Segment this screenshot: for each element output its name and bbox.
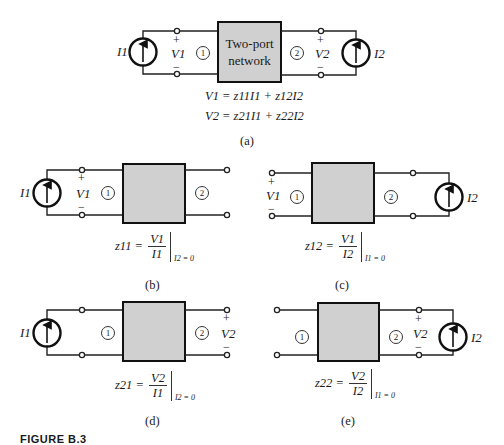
label-v1: V1 <box>76 187 90 200</box>
minus-sign: − <box>317 61 324 73</box>
port-1-marker: 1 <box>101 326 115 340</box>
caption-a: (a) <box>240 134 254 149</box>
label-i1: I1 <box>20 326 31 339</box>
caption-c: (c) <box>335 278 349 293</box>
label-i2: I2 <box>467 191 478 204</box>
plus-sign: + <box>317 34 324 46</box>
minus-sign: − <box>173 61 180 73</box>
plus-sign: + <box>223 312 230 324</box>
minus-sign: − <box>223 341 230 353</box>
figure-caption: FIGURE B.3 <box>20 433 87 445</box>
equation-v1: V1 = z11I1 + z12I2 <box>205 89 303 104</box>
label-i1: I1 <box>117 45 128 58</box>
minus-sign: − <box>268 203 275 215</box>
port-2-marker: 2 <box>195 186 209 200</box>
label-i2: I2 <box>471 331 482 344</box>
label-v1: V1 <box>171 47 185 60</box>
port-1-marker: 1 <box>295 330 309 344</box>
z12-definition: z12 = V1I2I1 = 0 <box>305 232 362 262</box>
plus-sign: + <box>78 172 85 184</box>
label-v2: V2 <box>413 327 427 340</box>
caption-d: (d) <box>145 414 160 429</box>
minus-sign: − <box>78 201 85 213</box>
port-2-marker: 2 <box>389 330 403 344</box>
minus-sign: − <box>415 341 422 353</box>
plus-sign: + <box>173 34 180 46</box>
port-2-marker: 2 <box>195 326 209 340</box>
port-1-marker: 1 <box>101 186 115 200</box>
label-v1: V1 <box>266 189 280 202</box>
port-2-marker: 2 <box>384 190 398 204</box>
z21-definition: z21 = V2I1I2 = 0 <box>115 371 172 401</box>
label-i2: I2 <box>374 47 385 60</box>
plus-sign: + <box>268 176 275 188</box>
port-1-marker: 1 <box>196 46 210 60</box>
label-v2: V2 <box>221 327 235 340</box>
caption-e: (e) <box>341 414 355 429</box>
equation-v2: V2 = z21I1 + z22I2 <box>205 109 304 124</box>
two-port-network-label: Two-portnetwork <box>218 35 281 69</box>
plus-sign: + <box>415 313 422 325</box>
port-2-marker: 2 <box>290 46 304 60</box>
z22-definition: z22 = V2I2I1 = 0 <box>315 369 372 399</box>
label-i1: I1 <box>20 186 31 199</box>
port-1-marker: 1 <box>290 190 304 204</box>
caption-b: (b) <box>145 278 160 293</box>
z11-definition: z11 = V1I1I2 = 0 <box>115 232 171 262</box>
label-v2: V2 <box>315 47 329 60</box>
